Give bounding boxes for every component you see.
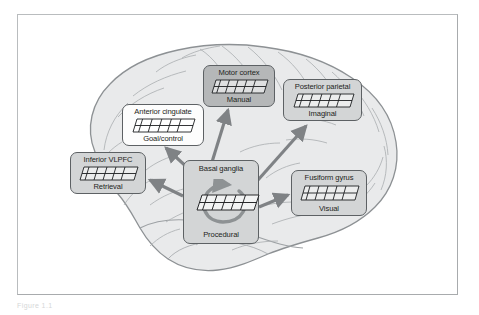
module-posterior-parietal[interactable]: Posterior parietal Imaginal <box>283 79 362 121</box>
module-title: Fusiform gyrus <box>305 173 354 182</box>
module-subtitle: Visual <box>319 204 339 213</box>
basal-ganglia-core <box>189 179 253 225</box>
module-title: Motor cortex <box>219 68 260 77</box>
module-inferior-vlpfc[interactable]: Inferior VLPFC Retrieval <box>70 152 146 194</box>
module-subtitle: Imaginal <box>309 109 337 118</box>
module-title: Posterior parietal <box>295 82 351 91</box>
module-subtitle: Goal/control <box>143 134 183 143</box>
buffer-grid-icon <box>130 118 196 133</box>
module-title: Anterior cingulate <box>134 107 191 116</box>
module-motor-cortex[interactable]: Motor cortex Manual <box>203 65 275 107</box>
module-fusiform-gyrus[interactable]: Fusiform gyrus Visual <box>291 170 367 216</box>
module-basal-ganglia[interactable]: Basal ganglia Procedural <box>183 160 259 244</box>
module-subtitle: Retrieval <box>93 182 122 191</box>
module-subtitle: Procedural <box>203 230 239 239</box>
figure-caption: Figure 1.1 <box>17 302 217 309</box>
figure-root: Anterior cingulate Goal/control Motor co… <box>0 0 479 315</box>
module-subtitle: Manual <box>227 95 251 104</box>
buffer-grid-icon <box>209 79 269 94</box>
buffer-grid-icon <box>77 166 139 181</box>
buffer-grid-icon <box>298 185 360 201</box>
buffer-grid-icon <box>194 194 260 211</box>
module-title: Inferior VLPFC <box>84 155 133 164</box>
module-title: Basal ganglia <box>199 164 243 173</box>
module-anterior-cingulate[interactable]: Anterior cingulate Goal/control <box>122 104 204 146</box>
buffer-grid-icon <box>291 93 355 108</box>
